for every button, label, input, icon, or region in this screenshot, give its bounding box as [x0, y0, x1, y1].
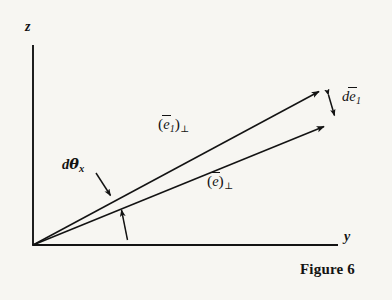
angle-leader-upper-arrow: [96, 173, 111, 196]
tip-difference-label: de1: [342, 89, 361, 106]
angle-leader-lower-arrow: [122, 210, 128, 240]
z-axis-label: z: [25, 20, 30, 34]
lower-vector-close-paren: ): [219, 172, 224, 189]
tip-difference-symbol: e: [349, 89, 355, 104]
lower-vector-label: (e)⊥: [207, 173, 233, 192]
upper-vector-symbol: e: [163, 117, 169, 132]
lower-vector-arrow: [33, 127, 324, 246]
lower-vector-perp-symbol: ⊥: [224, 181, 233, 191]
y-axis-label: y: [344, 230, 350, 244]
tip-difference-subscript: 1: [356, 95, 361, 106]
angle-label-theta: θ: [69, 155, 79, 172]
diagram-canvas: [0, 0, 392, 300]
upper-vector-perp-symbol: ⊥: [180, 124, 189, 134]
figure-diagram: z y (e1)⊥ (e)⊥ dθx de1 Figure 6: [0, 0, 392, 300]
tip-difference-d: d: [342, 88, 349, 104]
figure-caption: Figure 6: [300, 262, 355, 277]
upper-vector-label: (e1)⊥: [158, 116, 189, 135]
tip-difference-double-arrow: [329, 95, 335, 116]
angle-label-subscript: x: [79, 163, 84, 174]
lower-vector-symbol: e: [212, 174, 218, 189]
angle-label: dθx: [62, 157, 84, 175]
